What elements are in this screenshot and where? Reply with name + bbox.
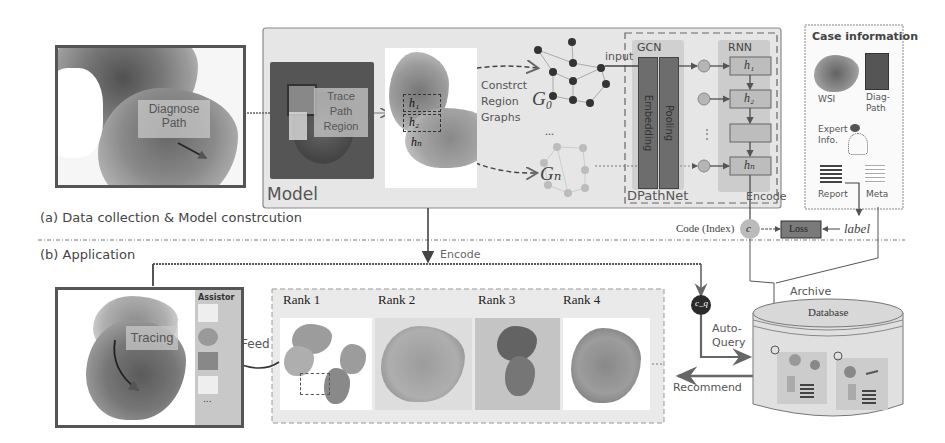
database-label[interactable]: Database bbox=[808, 306, 848, 318]
trace-region-image[interactable]: Trace Path Region bbox=[270, 62, 374, 179]
rnn-cell-h2: h₂ bbox=[744, 91, 754, 106]
region-image[interactable]: h₁ h₂ hₙ bbox=[385, 48, 477, 188]
assistor-item[interactable] bbox=[198, 376, 218, 394]
label-line: Auto- bbox=[712, 322, 745, 336]
trace-arrow bbox=[58, 290, 198, 425]
diag-path-thumbnail bbox=[865, 53, 889, 90]
label-line: Region bbox=[481, 94, 527, 110]
svg-text:⋮: ⋮ bbox=[701, 127, 713, 141]
rank-2-image[interactable] bbox=[375, 318, 472, 410]
assistor-title: Assistor bbox=[198, 293, 241, 302]
graph-label-g0: G₀ bbox=[532, 88, 552, 110]
rank-4-image[interactable] bbox=[563, 318, 650, 410]
assistor-item[interactable] bbox=[198, 328, 218, 346]
assistor-item[interactable] bbox=[198, 352, 218, 370]
meta-icon bbox=[865, 165, 885, 183]
region-label-hn: hₙ bbox=[411, 135, 422, 150]
construct-graphs-label: Constrct Region Graphs bbox=[481, 78, 527, 126]
trace-path-region-overlay: Trace Path Region bbox=[314, 88, 368, 137]
overlay-line: Region bbox=[314, 119, 368, 134]
graph-ellipsis: ... bbox=[545, 124, 554, 139]
section-a-title: (a) Data collection & Model constrcution bbox=[40, 210, 302, 225]
case-info-title: Case information bbox=[812, 30, 918, 43]
case-item-report: Report bbox=[818, 189, 848, 199]
doctor-hair-icon bbox=[850, 124, 860, 132]
label-line: Graphs bbox=[481, 110, 527, 126]
doctor-icon bbox=[848, 133, 868, 155]
case-item-diag-path: Diag-Path bbox=[866, 92, 894, 114]
overlay-line: Path bbox=[314, 104, 368, 119]
rank-4-label: Rank 4 bbox=[563, 292, 600, 308]
dpathnet-label: DPathNet bbox=[627, 188, 688, 203]
assistor-more: ... bbox=[203, 394, 241, 404]
rank-2-label: Rank 2 bbox=[378, 292, 415, 308]
layer-label: Embedding bbox=[643, 95, 654, 152]
report-icon bbox=[820, 165, 842, 183]
recommend-label: Recommend bbox=[673, 381, 742, 394]
gcn-title: GCN bbox=[637, 41, 661, 54]
graph-label-gn: Gₙ bbox=[540, 162, 561, 185]
case-item-wsi: WSI bbox=[818, 94, 835, 104]
query-symbol: c_q bbox=[695, 298, 708, 308]
label-text: label bbox=[844, 221, 870, 237]
model-box-label: Model bbox=[267, 184, 318, 204]
archive-label: Archive bbox=[790, 285, 831, 298]
diagnose-path-image[interactable]: Diagnose Path bbox=[55, 45, 246, 188]
label-line: Constrct bbox=[481, 78, 527, 94]
rnn-title: RNN bbox=[728, 41, 752, 54]
rnn-cell-h1: h₁ bbox=[744, 58, 754, 73]
encode-label: Encode bbox=[746, 190, 786, 203]
feed-label: Feed bbox=[241, 337, 270, 351]
layer-label: Pooling bbox=[664, 105, 675, 141]
path-arrow bbox=[58, 48, 243, 185]
loss-label[interactable]: Loss bbox=[789, 223, 808, 234]
input-label: input bbox=[605, 50, 633, 63]
overlay-line: Trace bbox=[314, 89, 368, 104]
encode-arrow-label: Encode bbox=[440, 248, 480, 261]
assistor-item[interactable] bbox=[198, 304, 218, 322]
gcn-embedding-layer[interactable]: Embedding bbox=[638, 57, 658, 189]
gcn-pooling-layer[interactable]: Pooling bbox=[659, 57, 679, 189]
case-item-meta: Meta bbox=[866, 189, 888, 199]
code-index-label: Code (Index) bbox=[676, 222, 734, 234]
rank-3-image[interactable] bbox=[475, 318, 560, 410]
code-symbol: c bbox=[746, 222, 751, 234]
assistor-panel: Assistor ... bbox=[195, 290, 241, 425]
rank-1-image[interactable] bbox=[280, 318, 372, 410]
section-b-title: (b) Application bbox=[40, 247, 135, 262]
tracing-window[interactable]: Tracing Assistor ... bbox=[55, 287, 244, 428]
rank-1-label: Rank 1 bbox=[283, 292, 320, 308]
label-line: Query bbox=[712, 336, 745, 350]
rnn-cell-hn: hₙ bbox=[744, 158, 755, 173]
auto-query-label: Auto- Query bbox=[712, 322, 745, 350]
rank-3-label: Rank 3 bbox=[478, 292, 515, 308]
